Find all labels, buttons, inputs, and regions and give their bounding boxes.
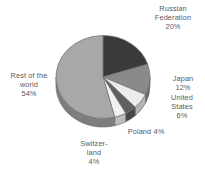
- pie-chart-figure: Russian Federation 20% Japan 12% United …: [0, 0, 205, 182]
- slice-label-poland: Poland 4%: [121, 127, 171, 136]
- slice-label-united-states: United States 6%: [161, 93, 203, 121]
- pie-top-faces: [56, 36, 150, 119]
- slice-label-russian-federation: Russian Federation 20%: [143, 4, 203, 32]
- slice-label-japan: Japan 12%: [163, 74, 203, 92]
- slice-label-switzerland: Switzer- land 4%: [71, 139, 117, 167]
- slice-label-rest-of-the-world: Rest of the world 54%: [2, 71, 56, 99]
